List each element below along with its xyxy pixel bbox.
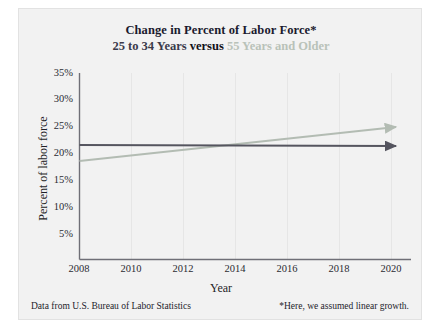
y-tick-label: 35% bbox=[39, 67, 73, 78]
series-line-25-to-34 bbox=[80, 145, 397, 146]
series-line-55-and-older bbox=[80, 127, 397, 161]
x-tick-label: 2020 bbox=[371, 263, 411, 274]
x-tick-label: 2016 bbox=[267, 263, 307, 274]
x-axis-label: Year bbox=[19, 281, 423, 296]
figure-panel: Change in Percent of Labor Force* 25 to … bbox=[18, 8, 422, 320]
gridlines-vertical bbox=[132, 73, 392, 259]
y-axis-label: Percent of labor force bbox=[36, 89, 51, 249]
x-tick-label: 2010 bbox=[111, 263, 151, 274]
footer-note-text: *Here, we assumed linear growth. bbox=[279, 301, 409, 311]
chart-canvas bbox=[19, 9, 423, 321]
x-tick-label: 2014 bbox=[215, 263, 255, 274]
plot-area: 35% 30% 25% 20% 15% 10% 5% 2008 2010 201… bbox=[19, 9, 423, 321]
figure-footer: Data from U.S. Bureau of Labor Statistic… bbox=[19, 301, 423, 321]
footer-source-text: Data from U.S. Bureau of Labor Statistic… bbox=[31, 301, 191, 311]
x-tick-label: 2012 bbox=[163, 263, 203, 274]
x-tick-label: 2008 bbox=[59, 263, 99, 274]
x-tick-label: 2018 bbox=[319, 263, 359, 274]
